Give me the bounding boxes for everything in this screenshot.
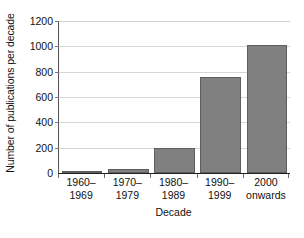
y-axis-tick-label: 800	[35, 67, 53, 77]
bar-slot	[244, 21, 290, 173]
bar-slot	[151, 21, 197, 173]
x-axis-tick-label: 1990–1999	[197, 176, 243, 206]
plot-area	[58, 21, 290, 174]
bar[interactable]	[200, 77, 241, 173]
x-axis-tick-label: 1970–1979	[104, 176, 150, 206]
y-axis-title: Number of publications per decade	[0, 0, 20, 186]
x-axis-tick-label: 2000onwards	[243, 176, 289, 206]
x-axis-tick-label-line: 1990–	[205, 176, 234, 188]
y-axis-tick-label: 600	[35, 92, 53, 102]
bar[interactable]	[154, 148, 195, 173]
bar[interactable]	[247, 45, 288, 173]
x-axis-tick-label-line: 2000	[254, 176, 277, 188]
y-axis-tick-label: 1000	[30, 41, 53, 51]
x-axis-tick-label-line: 1960–	[67, 176, 96, 188]
bar[interactable]	[62, 171, 103, 173]
y-axis-tick-label: 1200	[30, 16, 53, 26]
y-axis-tick-labels: 020040060080010001200	[18, 0, 56, 186]
y-axis-tick-label: 0	[47, 168, 53, 178]
x-axis-tick-label-line: onwards	[243, 189, 289, 202]
x-axis-tick-label-line: 1970–	[113, 176, 142, 188]
x-axis-tick-label: 1960–1969	[58, 176, 104, 206]
bars-group	[59, 21, 290, 173]
x-axis-tick-labels: 1960–19691970–19791980–19891990–19992000…	[58, 176, 289, 206]
x-axis-tick-label-line: 1999	[197, 189, 243, 202]
x-axis-tick-label-line: 1980–	[159, 176, 188, 188]
x-axis-tick-label-line: 1989	[150, 189, 196, 202]
x-axis-title: Decade	[58, 206, 289, 218]
x-axis-tick-label: 1980–1989	[150, 176, 196, 206]
y-axis-tick-label: 400	[35, 117, 53, 127]
bar-slot	[59, 21, 105, 173]
bar-chart-figure: Number of publications per decade 020040…	[0, 0, 304, 238]
y-axis-tick-label: 200	[35, 143, 53, 153]
bar-slot	[198, 21, 244, 173]
bar-slot	[105, 21, 151, 173]
x-axis-tick-label-line: 1979	[104, 189, 150, 202]
x-axis-tick-label-line: 1969	[58, 189, 104, 202]
bar[interactable]	[108, 169, 149, 173]
y-axis-title-text: Number of publications per decade	[4, 13, 16, 173]
